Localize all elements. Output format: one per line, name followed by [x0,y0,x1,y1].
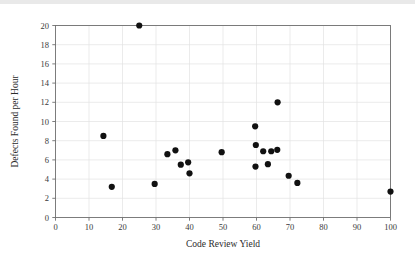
y-tick-label: 20 [41,21,50,31]
chart-canvas: 010203040506070809010002468101214161820C… [0,0,415,260]
tick-marks-group [52,26,390,221]
x-tick-label: 30 [152,222,161,232]
y-tick-label: 8 [45,136,49,146]
y-tick-label: 18 [41,40,50,50]
data-point [286,173,292,179]
x-tick-label: 40 [185,222,194,232]
y-tick-label: 12 [41,97,50,107]
y-tick-label: 16 [41,59,50,69]
data-point [152,181,158,187]
data-point [252,123,258,129]
data-point [172,147,178,153]
data-point [136,22,142,28]
data-point [260,148,266,154]
x-tick-label: 50 [219,222,228,232]
x-tick-label: 70 [286,222,295,232]
scatter-plot-figure: 010203040506070809010002468101214161820C… [0,0,415,260]
gridlines-group [56,26,391,218]
data-point [274,147,280,153]
data-points-group [100,22,393,194]
data-point [265,161,271,167]
data-point [268,148,274,154]
x-tick-label: 90 [353,222,362,232]
data-point [275,99,281,105]
y-tick-label: 10 [41,117,50,127]
data-point [252,164,258,170]
x-tick-label: 0 [53,222,57,232]
x-tick-label: 60 [252,222,261,232]
data-point [178,162,184,168]
data-point [100,133,106,139]
x-tick-label: 10 [85,222,94,232]
y-tick-label: 14 [41,78,50,88]
data-point [219,149,225,155]
y-tick-label: 4 [45,174,50,184]
data-point [294,180,300,186]
data-point [186,170,192,176]
x-axis-title: Code Review Yield [186,239,260,249]
y-axis-title: Defects Found per Hour [10,75,20,168]
x-tick-label: 100 [384,222,397,232]
y-tick-label: 2 [45,193,49,203]
x-tick-labels-group: 0102030405060708090100 [53,222,397,232]
x-tick-label: 80 [319,222,328,232]
y-tick-labels-group: 02468101214161820 [41,21,50,223]
data-point [185,159,191,165]
x-tick-label: 20 [118,222,127,232]
data-point [253,142,259,148]
data-point [109,184,115,190]
y-tick-label: 6 [45,155,49,165]
data-point [387,188,393,194]
data-point [164,151,170,157]
y-tick-label: 0 [45,213,49,223]
